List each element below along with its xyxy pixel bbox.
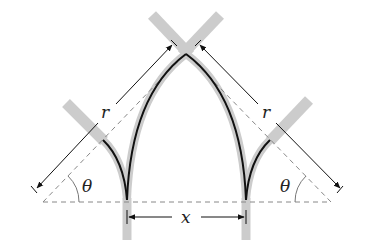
top-right-band xyxy=(182,15,220,55)
label-r-left: r xyxy=(101,102,110,122)
outer-left-band xyxy=(66,103,104,141)
diagram-canvas: r r θ θ x xyxy=(0,0,371,250)
left-r-tick-low xyxy=(31,186,37,193)
label-x: x xyxy=(181,207,191,227)
outer-right-arc-band xyxy=(246,140,270,200)
arch-curves xyxy=(103,54,270,200)
dimension-lines xyxy=(31,40,343,224)
inner-right-arc-band xyxy=(186,54,246,200)
label-r-right: r xyxy=(262,102,271,122)
outer-right-band xyxy=(270,100,309,141)
label-theta-right: θ xyxy=(280,176,290,196)
label-theta-left: θ xyxy=(82,176,92,196)
gothic-arch-diagram: r r θ θ x xyxy=(0,0,371,250)
left-theta-arc xyxy=(68,176,79,202)
right-r-tick-low xyxy=(337,186,343,193)
angle-arcs xyxy=(68,176,306,202)
inner-left-arc-band xyxy=(127,54,186,200)
outer-left-arc-band xyxy=(103,140,127,200)
right-theta-arc xyxy=(295,176,306,202)
